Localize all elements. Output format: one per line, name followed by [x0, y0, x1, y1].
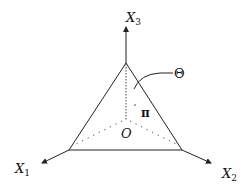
- origin-label: O: [121, 126, 132, 141]
- x3-label: X3: [125, 10, 141, 27]
- theta-pointer-curve: [134, 73, 173, 89]
- x2-axis: [182, 150, 211, 163]
- x1-axis: [42, 150, 69, 163]
- interior-point: [134, 104, 136, 106]
- origin-to-x2-dotted: [130, 121, 180, 146]
- plane-label: π: [141, 106, 150, 120]
- x2-label: X2: [221, 166, 237, 183]
- region-label: Θ: [174, 66, 185, 81]
- simplex-diagram: X3 X1 X2 O π Θ: [0, 0, 250, 189]
- x1-label: X1: [14, 161, 30, 178]
